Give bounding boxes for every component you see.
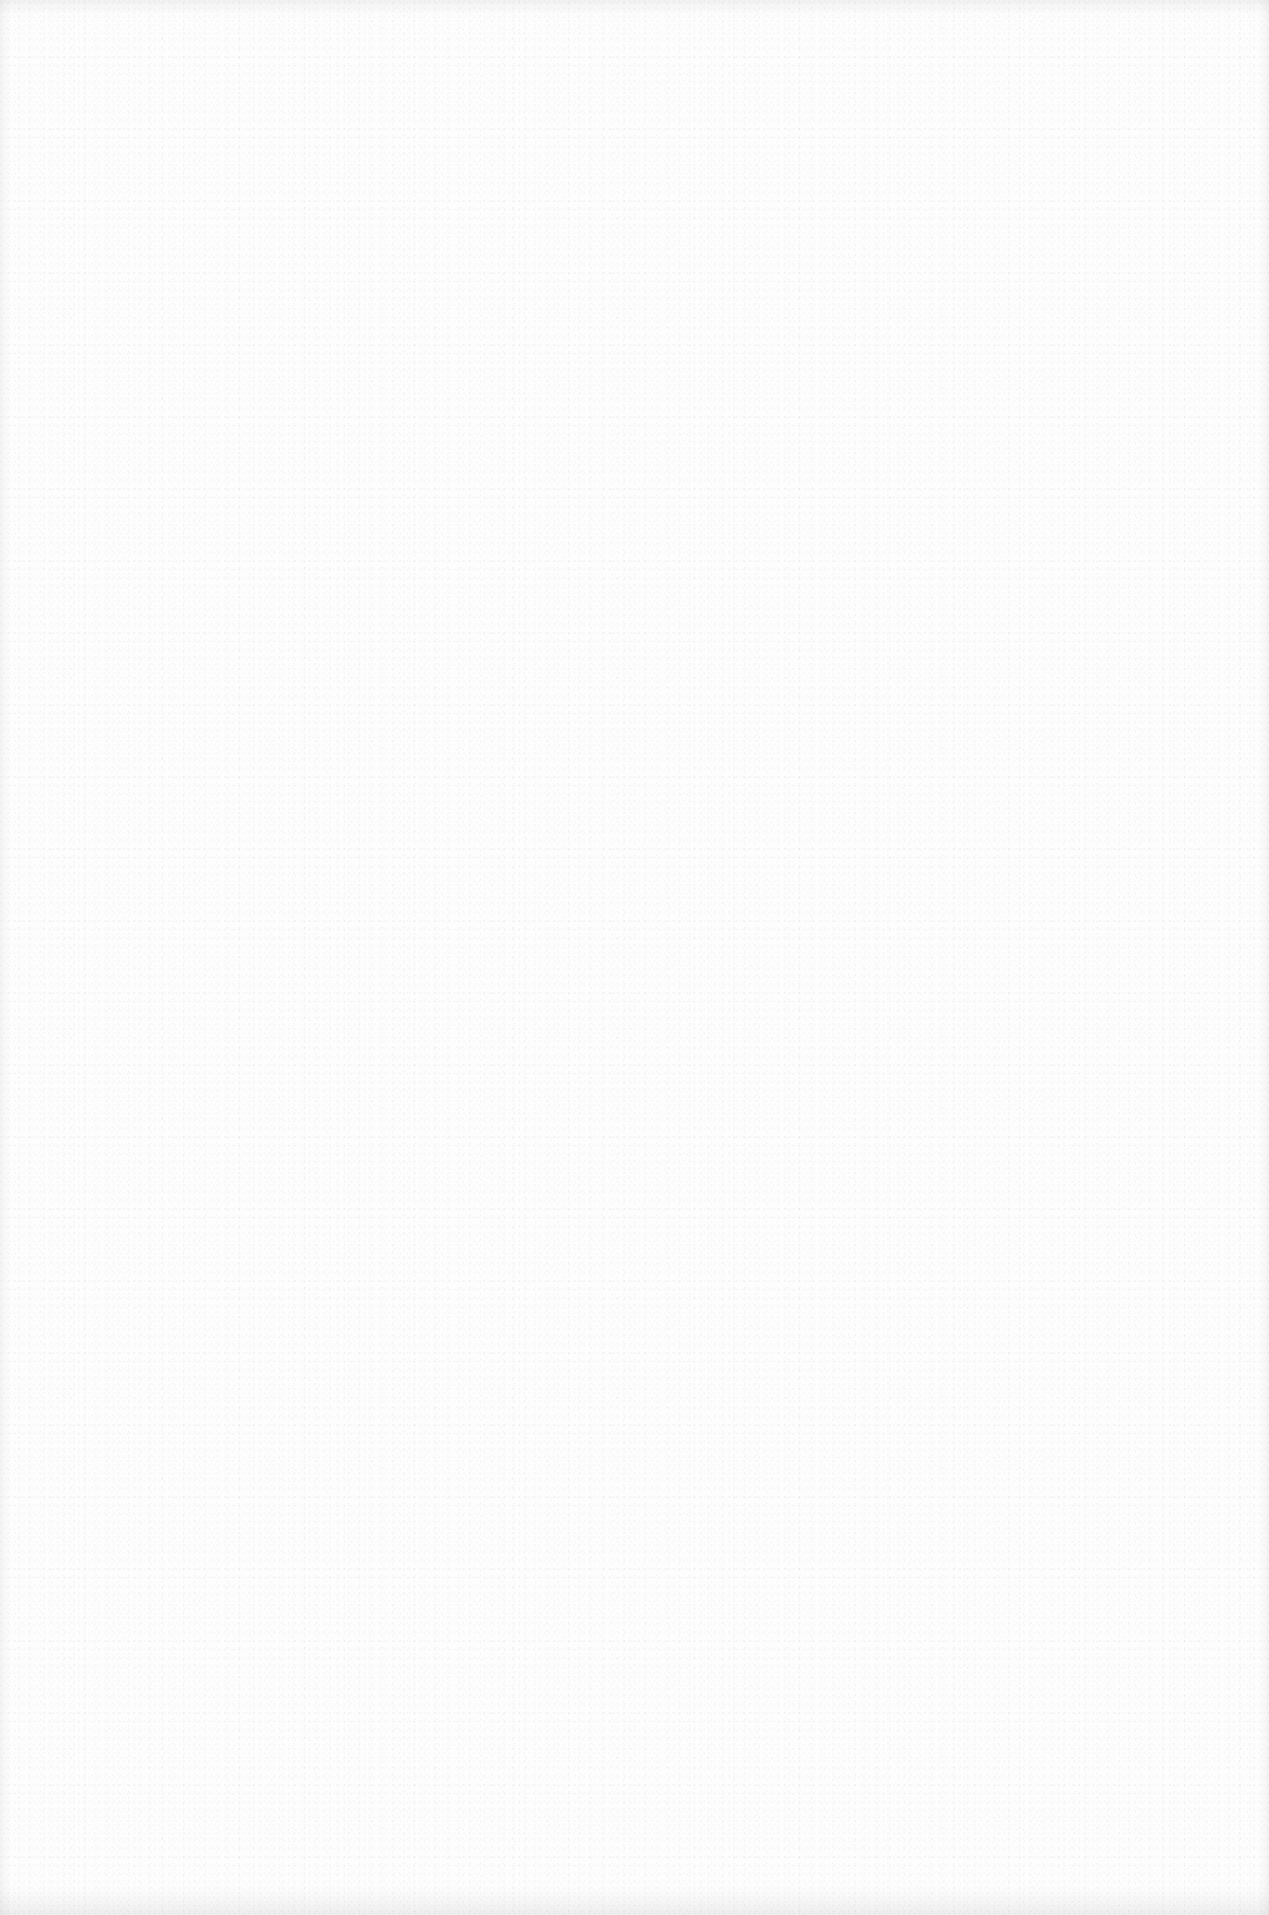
paper-grain-texture (0, 0, 1269, 1915)
edge-shadow (0, 0, 1269, 1915)
blank-paper-page (0, 0, 1269, 1915)
